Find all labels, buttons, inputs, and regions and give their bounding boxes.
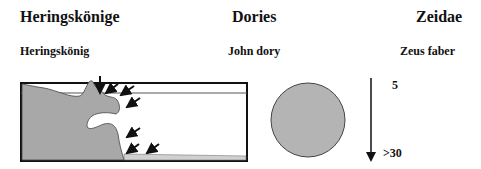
depth-top-label: 5 <box>392 78 398 93</box>
depth-arrow-icon <box>366 78 376 162</box>
open-water-circle <box>271 83 345 157</box>
depth-bottom-label: >30 <box>383 146 402 161</box>
habitat-diagram <box>0 0 481 169</box>
